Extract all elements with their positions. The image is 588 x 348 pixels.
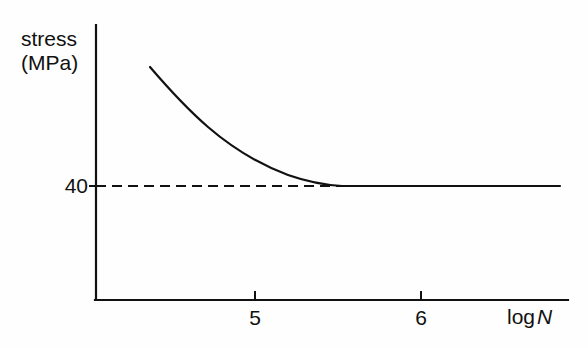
y-axis-label-line1: stress: [21, 28, 77, 49]
x-axis-label: logN: [507, 306, 552, 327]
y-tick-label-40: 40: [56, 175, 88, 196]
s-n-curve-figure: stress (MPa) 40 5 6 logN: [0, 0, 588, 348]
y-axis-label-line2: (MPa): [21, 52, 78, 73]
x-axis-label-variable: N: [535, 305, 552, 328]
x-axis-label-prefix: log: [507, 305, 535, 328]
sn-fatigue-curve: [150, 67, 560, 186]
x-tick-label-5: 5: [237, 307, 273, 328]
plot-area: [0, 0, 588, 348]
x-tick-label-6: 6: [403, 307, 439, 328]
